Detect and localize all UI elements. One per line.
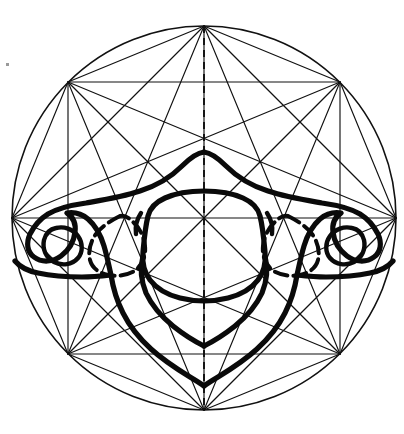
polygon-chord-top-to-upper-left (68, 26, 204, 82)
left-transverse-foramen (43, 227, 81, 264)
polygon-chord-right-to-lower-right (340, 218, 396, 354)
polygon-chord-lower-right-to-bottom (204, 354, 340, 410)
polygon-chord-bottom-to-lower-left (68, 354, 204, 410)
figure-root (0, 0, 404, 434)
polygon-chord-lower-right-to-left (12, 218, 340, 354)
vertebral-body-outline-left (15, 152, 204, 277)
right-transverse-foramen (326, 227, 364, 264)
polygon-chord-top-to-upper-right (204, 26, 340, 82)
vertebral-body-outline (204, 152, 393, 277)
polygon-chord-left-to-upper-left (12, 82, 68, 218)
scan-speck (6, 63, 9, 66)
polygon-chord-right-to-lower-left (68, 218, 396, 354)
figure-canvas (0, 0, 404, 434)
polygon-chord-lower-left-to-left (12, 218, 68, 354)
polygon-chord-upper-right-to-right (340, 82, 396, 218)
